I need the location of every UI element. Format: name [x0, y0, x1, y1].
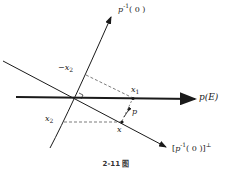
- figure-caption: 2-11 图: [0, 158, 232, 168]
- perp-arg: ( 0 ): [186, 144, 202, 153]
- image-axis-line: [16, 97, 195, 99]
- label-p: p: [132, 108, 137, 116]
- perp-axis-label: [p-1( 0 )]⊥: [172, 142, 211, 153]
- x1-sub: 1: [136, 88, 140, 95]
- image-axis-label: p(E): [199, 93, 218, 102]
- perp-axis-line: [3, 61, 166, 147]
- x2-sub: 2: [50, 117, 54, 124]
- point-x: [120, 120, 123, 123]
- neg-x2-base: −x: [58, 63, 69, 72]
- dashed-x-to-x1-projection: [122, 100, 132, 121]
- kernel-axis-label-arg: ( 0 ): [129, 5, 145, 14]
- label-x: x: [117, 126, 122, 134]
- dashed-neg-x2-to-x1: [86, 75, 133, 98]
- label-x1: x1: [131, 86, 139, 95]
- label-neg-x2: −x2: [58, 64, 73, 73]
- perp-symbol: ⊥: [206, 141, 212, 148]
- label-x2: x2: [45, 115, 53, 124]
- neg-x2-sub: 2: [69, 66, 73, 73]
- kernel-axis-label: p-1( 0 ): [118, 3, 145, 14]
- point-x1: [131, 97, 134, 100]
